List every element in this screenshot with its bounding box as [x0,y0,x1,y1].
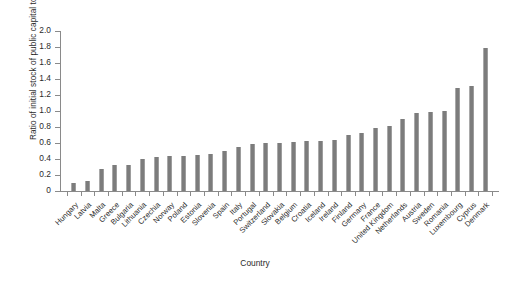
bar [71,183,76,191]
bar [359,133,364,191]
bar [112,165,117,191]
x-axis-tick [465,192,466,196]
bar [99,169,104,191]
y-axis-tick: 0 [55,191,60,192]
bar [181,156,186,191]
x-axis-tick [424,192,425,196]
bar [373,128,378,191]
bar-chart-figure: Ratio of initial stock of public capital… [0,0,510,282]
bar [250,144,255,191]
y-axis-line [60,31,61,192]
x-axis-tick [478,192,479,196]
x-axis-tick [328,192,329,196]
x-axis-tick [67,192,68,196]
bar [387,126,392,191]
y-axis-tick: 1.0 [55,111,60,112]
x-axis-tick [492,192,493,196]
x-axis-tick [355,192,356,196]
bar [414,113,419,191]
x-axis-title: Country [0,258,510,268]
y-axis-tick-label: 1.2 [39,89,51,99]
x-axis-tick [382,192,383,196]
bar [195,155,200,191]
x-axis-tick [410,192,411,196]
plot-area: 00.20.40.60.81.01.21.41.61.82.0 [60,31,499,191]
x-axis-line [60,191,499,192]
x-axis-tick [273,192,274,196]
x-axis-tick [81,192,82,196]
bar [236,147,241,191]
y-axis-tick-label: 0 [46,185,51,195]
bar [318,141,323,191]
bar [346,135,351,191]
y-axis-title: Ratio of initial stock of public capital… [29,0,38,154]
x-axis-tick [314,192,315,196]
bar [428,112,433,191]
x-axis-tick [231,192,232,196]
x-axis-tick [437,192,438,196]
bar [442,111,447,191]
bar [222,151,227,191]
bar [455,88,460,191]
y-axis-tick-label: 1.6 [39,57,51,67]
y-axis-tick: 0.2 [55,175,60,176]
y-axis-tick-label: 0.2 [39,169,51,179]
bar [291,142,296,191]
y-axis-tick-label: 1.8 [39,41,51,51]
bar [140,159,145,191]
y-axis-tick-label: 1.4 [39,73,51,83]
y-axis-tick-label: 0.4 [39,153,51,163]
bar [154,157,159,191]
x-axis-tick [149,192,150,196]
y-axis-tick: 0.6 [55,143,60,144]
bar [277,143,282,191]
bar [85,181,90,191]
x-axis-tick [122,192,123,196]
x-axis-tick [341,192,342,196]
y-axis-tick-label: 2.0 [39,25,51,35]
x-axis-tick [94,192,95,196]
y-axis-tick-label: 1.0 [39,105,51,115]
bar [167,156,172,191]
y-axis-tick: 1.2 [55,95,60,96]
y-axis-tick-label: 0.8 [39,121,51,131]
y-axis-tick: 0.4 [55,159,60,160]
x-axis-tick [218,192,219,196]
y-axis-tick: 2.0 [55,31,60,32]
x-axis-tick [396,192,397,196]
bar [208,154,213,191]
x-axis-tick [108,192,109,196]
bar [126,165,131,191]
y-axis-tick-label: 0.6 [39,137,51,147]
x-axis-tick [259,192,260,196]
x-axis-tick [451,192,452,196]
x-axis-tick [177,192,178,196]
y-axis-tick: 0.8 [55,127,60,128]
y-axis-tick: 1.4 [55,79,60,80]
x-axis-tick [286,192,287,196]
x-axis-tick [369,192,370,196]
x-axis-tick [163,192,164,196]
x-axis-tick [245,192,246,196]
bar [469,86,474,191]
x-axis-tick [204,192,205,196]
bar [483,48,488,191]
x-axis-tick [300,192,301,196]
bar [304,141,309,191]
bar [263,143,268,191]
x-axis-tick [190,192,191,196]
y-axis-tick: 1.6 [55,63,60,64]
y-axis-tick: 1.8 [55,47,60,48]
x-axis-tick [135,192,136,196]
bar [332,140,337,191]
bar [400,119,405,191]
